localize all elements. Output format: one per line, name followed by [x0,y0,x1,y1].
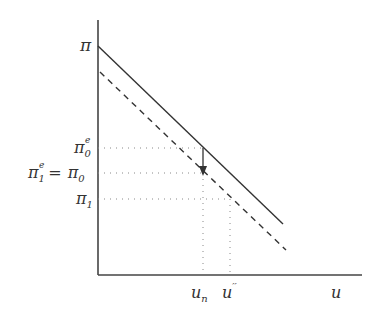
dotted-guides [98,148,230,275]
tick-un: un [191,283,208,304]
x-axis-label: u [331,283,341,302]
phillips-curve-solid [98,46,283,224]
arrow-head-icon [199,166,207,176]
phillips-curve-dashed [100,72,286,250]
y-axis-label: π [79,35,92,55]
tick-pi0-expected: π0e [73,135,92,159]
phillips-curve-diagram: π π0e π1e=π0 π1 un u′′ u [0,0,388,322]
tick-pi1-expected: π1e=π0 [27,160,85,184]
tick-pi1: π1 [75,189,93,210]
tick-u-double-prime: u′′ [222,281,238,302]
